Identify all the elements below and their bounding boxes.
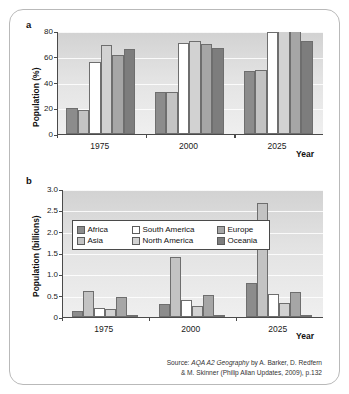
bar [301,315,312,317]
figure-card: a Population (%) 020406080 197520002025 … [9,9,340,385]
y-tick-label: 40 [25,80,53,88]
gridline [63,297,323,298]
gridline [63,190,323,191]
source-title: AQA A2 Geography [191,359,249,366]
bar [124,49,136,134]
bar [83,291,94,317]
bar [159,304,170,317]
y-tick-label: 0 [25,131,53,139]
panel-a-y-axis-title: Population (%) [31,68,41,128]
bar [201,44,213,134]
y-tick-label: 2.0 [30,229,58,237]
x-tick-label: 1975 [79,325,129,334]
gridline [63,275,323,276]
legend-swatch [217,237,225,245]
bar [192,306,203,317]
y-tick-mark [54,109,57,110]
panel-a-plot-area [57,32,323,135]
x-tick-label: 2000 [166,325,216,334]
x-tick-mark [62,318,63,321]
legend-label: Europe [228,226,254,234]
panel-b-legend: AfricaSouth AmericaEuropeAsiaNorth Ameri… [72,220,270,250]
y-tick-mark [59,232,62,233]
legend-swatch [77,237,85,245]
legend-swatch [132,237,140,245]
bar [166,92,178,134]
x-tick-mark [234,135,235,138]
y-tick-label: 80 [25,28,53,36]
bar [214,315,225,317]
y-tick-label: 3.0 [30,186,58,194]
legend-entry: Africa [77,226,129,234]
x-tick-mark [146,135,147,138]
y-tick-mark [59,296,62,297]
y-tick-mark [54,57,57,58]
x-tick-mark [57,135,58,138]
y-tick-label: 1.0 [30,271,58,279]
y-tick-label: 20 [25,105,53,113]
y-tick-mark [54,83,57,84]
legend-swatch [217,226,225,234]
y-tick-mark [59,254,62,255]
bar [203,295,214,317]
x-tick-mark [236,318,237,321]
bar [268,294,279,317]
bar [178,43,190,134]
source-prefix: Source: [167,359,192,366]
bar [116,297,127,317]
y-tick-label: 0 [30,314,58,322]
legend-swatch [77,226,85,234]
bar [279,303,290,317]
bar [267,32,279,134]
panel-a-x-axis-title: Year [296,150,314,159]
bar [127,315,138,317]
bar [112,55,124,134]
legend-entry: South America [132,226,214,234]
bar [72,311,83,317]
y-tick-mark [54,32,57,33]
y-tick-mark [59,275,62,276]
gridline [63,254,323,255]
panel-b-plot-area [62,190,323,318]
legend-label: Africa [88,226,108,234]
x-tick-label: 2000 [163,142,213,151]
legend-label: Oceania [228,237,258,245]
bar [246,283,257,317]
bar [66,108,78,134]
bar [101,45,113,134]
bar [155,92,167,134]
bar [255,70,267,134]
bar [78,110,90,134]
source-line-1: Source: AQA A2 Geography by A. Barker, D… [167,358,322,368]
y-tick-mark [59,211,62,212]
bar [170,257,181,317]
bar [105,309,116,317]
source-citation: Source: AQA A2 Geography by A. Barker, D… [167,358,322,377]
source-authors: by A. Barker, D. Redfern [249,359,322,366]
legend-label: Asia [88,237,104,245]
y-tick-label: 2.5 [30,207,58,215]
legend-label: North America [143,237,194,245]
y-tick-label: 0.5 [30,293,58,301]
panel-b-letter: b [26,176,32,186]
legend-label: South America [143,226,195,234]
bar [301,41,313,134]
y-tick-mark [59,190,62,191]
bar [290,32,302,134]
bar [244,71,256,134]
legend-entry: North America [132,237,214,245]
legend-entry: Europe [217,226,265,234]
source-line-2: & M. Skinner (Philip Allan Updates, 2009… [167,368,322,378]
x-tick-mark [149,318,150,321]
bar [290,292,301,317]
bar [212,48,224,134]
bar [94,308,105,317]
legend-swatch [132,226,140,234]
gridline [63,211,323,212]
panel-b-x-axis-title: Year [296,332,314,341]
y-tick-label: 1.5 [30,250,58,258]
y-tick-label: 60 [25,54,53,62]
bar [189,41,201,134]
bar [181,300,192,317]
legend-entry: Asia [77,237,129,245]
